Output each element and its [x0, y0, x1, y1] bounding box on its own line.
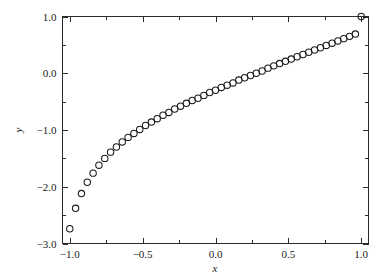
- x-tick-label: 0.5: [281, 248, 295, 260]
- y-tick-label: −3.0: [37, 238, 57, 250]
- data-point-marker: [107, 149, 113, 155]
- scatter-plot-svg: −1.0−0.50.00.51.0 −3.0−2.0−1.00.01.0 x y: [0, 0, 387, 280]
- x-axis-minor-ticks: [107, 17, 326, 244]
- data-point-marker: [166, 109, 172, 115]
- data-point-markers: [67, 13, 365, 232]
- data-point-marker: [131, 130, 137, 136]
- y-tick-label: 0.0: [43, 67, 57, 79]
- y-axis-major-ticks: [63, 18, 369, 245]
- data-point-marker: [90, 170, 96, 176]
- x-axis-tick-labels: −1.0−0.50.00.51.0: [60, 248, 369, 260]
- data-point-marker: [102, 155, 108, 161]
- data-point-marker: [78, 190, 84, 196]
- y-tick-label: −2.0: [37, 181, 57, 193]
- x-tick-label: −1.0: [60, 248, 80, 260]
- x-tick-label: −0.5: [133, 248, 153, 260]
- data-point-marker: [142, 122, 148, 128]
- y-axis-tick-labels: −3.0−2.0−1.00.01.0: [37, 11, 57, 250]
- data-point-marker: [154, 115, 160, 121]
- data-point-marker: [72, 205, 78, 211]
- x-tick-label: 1.0: [354, 248, 368, 260]
- y-tick-label: 1.0: [43, 11, 57, 23]
- data-point-marker: [352, 31, 358, 37]
- y-tick-label: −1.0: [37, 124, 57, 136]
- data-point-marker: [96, 162, 102, 168]
- chart-figure: −1.0−0.50.00.51.0 −3.0−2.0−1.00.01.0 x y: [0, 0, 387, 280]
- data-point-marker: [119, 139, 125, 145]
- x-tick-label: 0.0: [209, 248, 223, 260]
- x-axis-title: x: [212, 262, 218, 274]
- y-axis-minor-ticks: [63, 46, 369, 216]
- data-point-marker: [113, 144, 119, 150]
- data-point-marker: [67, 226, 73, 232]
- data-point-marker: [125, 134, 131, 140]
- y-axis-title: y: [12, 127, 24, 133]
- data-point-marker: [148, 119, 154, 125]
- data-point-marker: [137, 126, 143, 132]
- data-point-marker: [84, 179, 90, 185]
